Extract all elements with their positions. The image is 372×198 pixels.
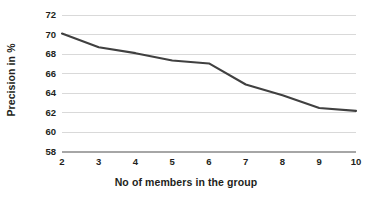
line-chart-figure: Precision in % 5860626466687072 23456789… <box>0 0 372 198</box>
x-axis-tick-label: 7 <box>235 156 257 167</box>
plot-area <box>0 0 372 198</box>
x-axis-tick-label: 3 <box>88 156 110 167</box>
x-axis-tick-label: 10 <box>345 156 367 167</box>
x-axis-tick-label: 2 <box>51 156 73 167</box>
x-axis-tick-label: 5 <box>161 156 183 167</box>
data-line-series-0 <box>62 34 356 111</box>
x-axis-tick-label: 9 <box>308 156 330 167</box>
data-series-group <box>62 34 356 111</box>
horizontal-gridlines <box>62 15 356 132</box>
x-axis-title-container: No of members in the group <box>0 172 372 190</box>
x-axis-title: No of members in the group <box>115 176 258 188</box>
x-axis-tick-label: 8 <box>272 156 294 167</box>
x-axis-tick-label: 4 <box>125 156 147 167</box>
x-axis-tick-label: 6 <box>198 156 220 167</box>
